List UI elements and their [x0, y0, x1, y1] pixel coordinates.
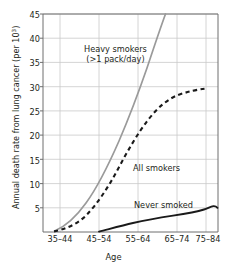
x-axis-title: Age — [0, 252, 227, 262]
x-tick-label: 45–54 — [87, 235, 112, 243]
x-tick-label: 55–64 — [126, 235, 151, 243]
annotation-heavy-smokers: Heavy smokers (>1 pack/day) — [84, 44, 147, 65]
plot-area — [0, 0, 227, 272]
x-axis-tick-labels: 35–44 45–54 55–64 65–74 75–84 — [0, 235, 227, 249]
chart-figure: Annual death rate from lung cancer (per … — [0, 0, 227, 272]
x-tick-label: 75–84 — [196, 235, 221, 243]
x-tick-label: 35–44 — [48, 235, 73, 243]
annotation-heavy-smokers-line2: (>1 pack/day) — [84, 54, 147, 64]
annotation-never-smoked: Never smoked — [134, 200, 193, 210]
x-tick-label: 65–74 — [165, 235, 190, 243]
annotation-all-smokers: All smokers — [133, 163, 180, 173]
annotation-heavy-smokers-line1: Heavy smokers — [84, 44, 147, 54]
